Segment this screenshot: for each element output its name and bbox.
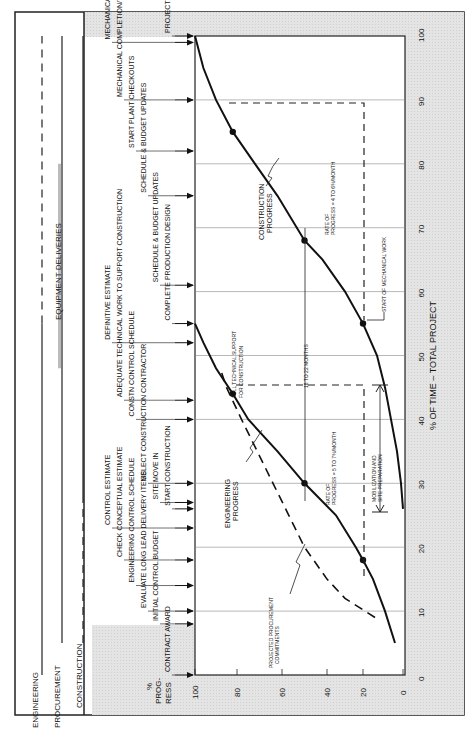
x-tick-label: 30 xyxy=(417,480,426,489)
construction-progress-label-2: PROGRESS xyxy=(266,193,273,233)
x-tick-label: 10 xyxy=(417,608,426,617)
rate-label-1b: PROGRESS = 5 TO 7%/MONTH xyxy=(331,431,337,505)
milestone-label: SCHEDULE & BUDGET UPDATES xyxy=(152,172,159,283)
y-tick-label: 60 xyxy=(278,688,287,697)
data-marker xyxy=(301,480,307,486)
x-tick-label: 80 xyxy=(417,160,426,169)
procurement-commitments-label-2: COMMITMENTS xyxy=(274,626,280,664)
milestone-label: SCHEDULE & BUDGET UPDATES xyxy=(140,82,147,193)
phase-label-construction: CONSTRUCTION xyxy=(75,643,84,708)
x-tick-label: 40 xyxy=(417,416,426,425)
engineering-progress-label-2: PROGRESS xyxy=(232,481,239,521)
milestone-label: INITIAL CONTROL BUDGET xyxy=(152,530,159,621)
phase-label-engineering: ENGINEERING xyxy=(31,672,40,728)
rate-label-2b: PROGRESS = 4 TO 6%/MONTH xyxy=(330,161,336,235)
y-tick-label: 80 xyxy=(233,688,242,697)
construction-progress-label: CONSTRUCTION xyxy=(258,184,265,240)
milestone-label: MECHANICAL COMPLETION/TURNOVER PERIOD –S… xyxy=(116,0,123,97)
y-tick-label: 100 xyxy=(191,685,200,699)
y-axis-label-3: RESS xyxy=(164,682,173,704)
engineering-progress-label: ENGINEERING xyxy=(224,479,231,528)
chart-figure: 0102030405060708090100 020406080100 CONT… xyxy=(0,0,475,729)
milestone-label: SELECT CONSTRUCTION CONTRACTOR xyxy=(140,344,147,481)
data-marker xyxy=(230,129,236,135)
data-marker xyxy=(360,557,366,563)
milestone-label: ADEQUATE TECHNICAL WORK TO SUPPORT CONST… xyxy=(116,189,124,397)
milestone-label: CONTROL ESTIMATE xyxy=(104,454,111,525)
milestone-label: CHECK CONCEPTUAL ESTIMATE xyxy=(116,446,123,557)
equipment-deliveries-label: EQUIPMENT DELIVERIES xyxy=(54,223,63,320)
milestone-label: CONTRACT AWARD xyxy=(164,606,171,672)
milestone-label: MECHANICAL COMPLETION/TURNOVER PERIOD – … xyxy=(104,0,111,39)
x-tick-label: 20 xyxy=(417,544,426,553)
start-mechanical-work-label: START OF MECHANICAL WORK xyxy=(381,236,387,312)
data-marker xyxy=(301,237,307,243)
milestone-label: SITE MOVE IN xyxy=(152,452,159,499)
milestone-label: EVALUATE LONG LEAD DELIVERY ITEMS xyxy=(140,471,147,609)
duration-label: 18 TO 22 MONTHS xyxy=(303,344,309,388)
x-tick-label: 70 xyxy=(417,224,426,233)
milestone-label: START CONSTRUCTION xyxy=(164,425,171,506)
phase-label-procurement: PROCUREMENT xyxy=(53,665,62,728)
y-tick-label: 0 xyxy=(399,690,408,695)
x-axis-label: % OF TIME – TOTAL PROJECT xyxy=(428,300,438,430)
x-tick-label: 90 xyxy=(417,96,426,105)
milestone-label: DEFINITIVE ESTIMATE xyxy=(104,264,111,339)
data-marker xyxy=(360,320,366,326)
y-tick-label: 20 xyxy=(359,688,368,697)
milestone-label: COMPLETE PRODUCTION DESIGN xyxy=(164,204,171,320)
x-tick-label: 100 xyxy=(417,28,426,42)
milestone-label: ENGINEERING CONTROL SCHEDULE xyxy=(128,457,135,582)
x-tick-label: 60 xyxy=(417,288,426,297)
mobilization-label-2: SITE PREPARATION xyxy=(377,454,383,502)
x-tick-label: 0 xyxy=(417,676,426,681)
full-technical-support-label: FULL TECHNICAL SUPPORT xyxy=(231,331,237,398)
y-tick-label: 40 xyxy=(323,688,332,697)
x-tick-label: 50 xyxy=(417,352,426,361)
y-axis-label-2: PROG- xyxy=(154,677,163,704)
y-axis-label-1: % xyxy=(145,683,154,690)
full-technical-support-label-2: FOR CONSTRUCTION xyxy=(238,345,244,398)
milestone-label: START PLANT CHECKOUTS xyxy=(128,55,135,148)
milestone-label: PROJECT COMPLETION xyxy=(164,0,171,33)
